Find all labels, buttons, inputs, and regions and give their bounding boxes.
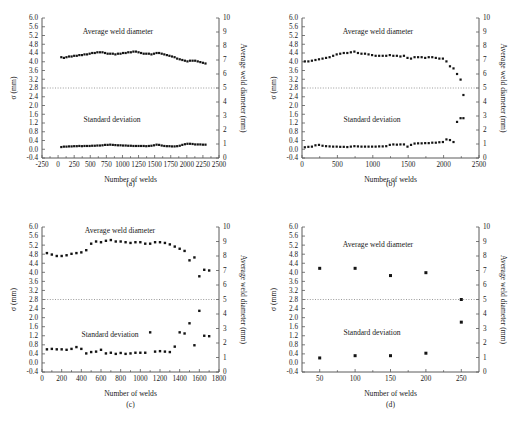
data-point <box>143 53 145 55</box>
svg-text:4.8: 4.8 <box>289 251 298 259</box>
weld-monitoring-figure: -0.40.00.40.81.21.62.02.42.83.23.64.04.4… <box>0 0 532 434</box>
data-point <box>80 348 82 350</box>
svg-text:600: 600 <box>96 375 107 383</box>
data-point <box>63 57 65 59</box>
svg-text:4.4: 4.4 <box>289 49 298 57</box>
panel-b-plot: -0.40.00.40.81.21.62.02.42.83.23.64.04.4… <box>266 0 532 217</box>
svg-text:Average weld diameter: Average weld diameter <box>343 27 414 36</box>
data-point <box>307 146 309 148</box>
data-point <box>325 145 327 147</box>
data-point <box>459 117 461 119</box>
data-point <box>129 242 131 244</box>
svg-text:4.4: 4.4 <box>29 260 38 268</box>
data-point <box>81 145 83 147</box>
data-point <box>56 255 58 257</box>
data-point <box>46 348 48 350</box>
svg-text:2.4: 2.4 <box>29 93 38 101</box>
svg-text:Number of welds: Number of welds <box>364 389 417 398</box>
svg-text:Standard deviation: Standard deviation <box>343 115 400 124</box>
svg-text:200: 200 <box>421 375 432 383</box>
data-point <box>375 146 377 148</box>
svg-text:4.8: 4.8 <box>29 251 38 259</box>
data-point <box>145 145 147 147</box>
svg-text:2000: 2000 <box>436 161 451 169</box>
data-point <box>456 73 458 75</box>
svg-text:0.4: 0.4 <box>289 137 298 145</box>
data-point <box>135 51 137 53</box>
svg-text:2: 2 <box>223 339 227 347</box>
data-point <box>375 55 377 57</box>
data-point <box>389 354 392 357</box>
data-point <box>112 53 114 55</box>
data-point <box>382 55 384 57</box>
svg-text:500: 500 <box>332 161 343 169</box>
data-point <box>70 348 72 350</box>
data-point <box>360 53 362 55</box>
data-point <box>107 53 109 55</box>
data-point <box>119 144 121 146</box>
data-point <box>193 256 195 258</box>
svg-text:4.0: 4.0 <box>29 269 38 277</box>
svg-text:500: 500 <box>85 161 96 169</box>
svg-text:Standard deviation: Standard deviation <box>343 328 400 337</box>
data-point <box>424 352 427 355</box>
svg-text:2: 2 <box>483 126 487 134</box>
svg-text:3: 3 <box>223 112 227 120</box>
svg-text:Average weld diameter: Average weld diameter <box>85 226 156 235</box>
data-point <box>438 58 440 60</box>
data-point <box>339 146 341 148</box>
data-point <box>122 144 124 146</box>
data-point <box>154 241 156 243</box>
data-point <box>95 240 97 242</box>
svg-text:400: 400 <box>76 375 87 383</box>
svg-text:2.4: 2.4 <box>29 305 38 313</box>
svg-text:0.0: 0.0 <box>29 146 38 154</box>
svg-text:1.2: 1.2 <box>289 332 298 340</box>
data-point <box>90 242 92 244</box>
data-point <box>399 55 401 57</box>
data-point <box>73 145 75 147</box>
data-point <box>173 145 175 147</box>
svg-text:-0.4: -0.4 <box>287 368 299 376</box>
data-point <box>148 53 150 55</box>
svg-text:5.6: 5.6 <box>289 23 298 31</box>
data-point <box>114 53 116 55</box>
data-point <box>421 142 423 144</box>
data-point <box>159 241 161 243</box>
data-point <box>435 57 437 59</box>
data-point <box>311 146 313 148</box>
svg-text:Number of welds: Number of welds <box>104 389 157 398</box>
data-point <box>122 52 124 54</box>
data-point <box>193 344 195 346</box>
data-point <box>104 52 106 54</box>
data-point <box>110 239 112 241</box>
data-point <box>143 145 145 147</box>
svg-text:1250: 1250 <box>131 161 146 169</box>
data-point <box>181 59 183 61</box>
data-point <box>304 146 306 148</box>
data-point <box>188 322 190 324</box>
svg-text:4.4: 4.4 <box>29 49 38 57</box>
data-point <box>188 259 190 261</box>
data-point <box>65 254 67 256</box>
data-point <box>194 60 196 62</box>
data-point <box>149 331 151 333</box>
svg-text:3.6: 3.6 <box>29 67 38 75</box>
data-point <box>164 350 166 352</box>
svg-text:800: 800 <box>115 375 126 383</box>
svg-text:Average weld diameter (mm): Average weld diameter (mm) <box>239 43 248 133</box>
svg-text:1500: 1500 <box>401 161 416 169</box>
data-point <box>140 52 142 54</box>
svg-text:6.0: 6.0 <box>29 14 38 22</box>
svg-text:2: 2 <box>223 126 227 134</box>
svg-text:8: 8 <box>223 42 227 50</box>
data-point <box>60 146 62 148</box>
data-point <box>68 55 70 57</box>
svg-text:6.0: 6.0 <box>29 223 38 231</box>
data-point <box>115 353 117 355</box>
data-point <box>371 54 373 56</box>
svg-text:1.2: 1.2 <box>29 119 38 127</box>
data-point <box>65 146 67 148</box>
svg-text:-250: -250 <box>35 161 49 169</box>
data-point <box>186 60 188 62</box>
